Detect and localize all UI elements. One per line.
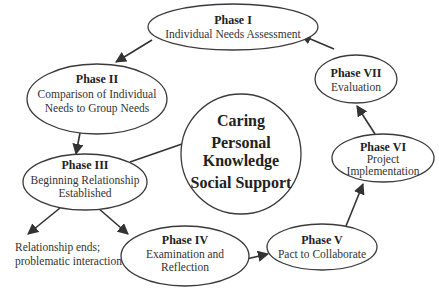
phase-2-text-2: Needs to Group Needs xyxy=(45,102,150,115)
phase-3-title: Phase III xyxy=(61,158,108,172)
phase-3-text-1: Beginning Relationship xyxy=(31,174,140,187)
link-iii-to-center xyxy=(130,144,182,162)
core-concepts-circle: Caring Personal Knowledge Social Support xyxy=(181,94,301,214)
phase-2-node: Phase II Comparison of Individual Needs … xyxy=(27,64,167,134)
exit-note-line-2: problematic interaction xyxy=(15,255,122,268)
phase-1-title: Phase I xyxy=(214,13,252,27)
phase-cycle-diagram: Caring Personal Knowledge Social Support… xyxy=(0,0,439,295)
phase-4-node: Phase IV Examination and Reflection xyxy=(121,226,249,286)
center-line-4: Social Support xyxy=(191,174,293,192)
center-line-1: Caring xyxy=(217,112,265,130)
phase-3-node: Phase III Beginning Relationship Establi… xyxy=(23,154,147,210)
phase-4-text-1: Examination and xyxy=(146,248,224,260)
phase-2-title: Phase II xyxy=(76,72,119,86)
exit-note-line-1: Relationship ends; xyxy=(15,241,100,254)
phase-7-title: Phase VII xyxy=(331,66,382,80)
phase-5-title: Phase V xyxy=(301,233,343,247)
arrow-v-to-vi xyxy=(346,184,363,226)
phase-1-node: Phase I Individual Needs Assessment xyxy=(148,4,318,50)
arrow-i-to-ii xyxy=(116,40,152,62)
phase-6-node: Phase VI Project Implementation xyxy=(332,134,434,182)
arrow-iii-to-exit xyxy=(28,208,60,234)
phase-6-text-2: Implementation xyxy=(347,165,420,178)
phase-2-text-1: Comparison of Individual xyxy=(38,88,157,101)
phase-4-title: Phase IV xyxy=(162,233,209,247)
arrow-iii-to-iv xyxy=(98,208,128,234)
arrow-vi-to-vii xyxy=(357,106,375,134)
phase-1-text: Individual Needs Assessment xyxy=(165,28,301,40)
center-line-2: Personal xyxy=(211,134,271,151)
phase-3-text-2: Established xyxy=(58,187,111,199)
phase-7-text: Evaluation xyxy=(331,81,381,93)
phase-5-node: Phase V Pact to Collaborate xyxy=(267,224,377,270)
phase-5-text: Pact to Collaborate xyxy=(278,248,366,260)
phase-4-text-2: Reflection xyxy=(161,261,209,273)
arrow-ii-to-iii xyxy=(76,133,80,154)
exit-note: Relationship ends; problematic interacti… xyxy=(15,241,122,268)
center-line-3: Knowledge xyxy=(203,152,279,170)
phase-7-node: Phase VII Evaluation xyxy=(315,55,397,103)
phase-6-title: Phase VI xyxy=(360,140,406,154)
